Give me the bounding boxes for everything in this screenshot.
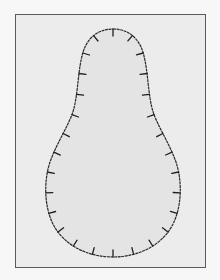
pear-outline <box>46 29 181 257</box>
tick-mark <box>140 74 147 75</box>
tick-mark <box>143 94 150 95</box>
tick-mark <box>79 74 86 75</box>
pear-outline-diagram <box>0 0 220 280</box>
tick-mark <box>77 94 84 95</box>
